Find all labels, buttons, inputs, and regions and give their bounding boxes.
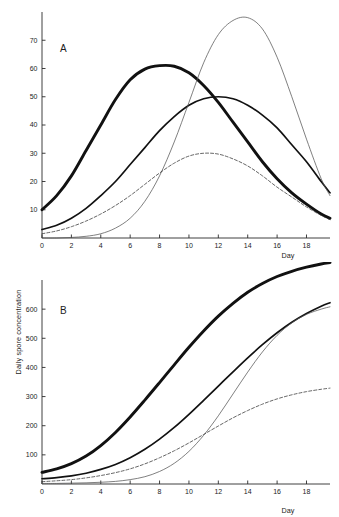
x-tick-label: 0 — [40, 242, 44, 249]
y-tick-label: 10 — [30, 206, 38, 213]
x-tick-label: 18 — [303, 488, 311, 495]
x-tick-label: 18 — [303, 242, 311, 249]
y-tick-label: 20 — [30, 178, 38, 185]
x-tick-label: 4 — [99, 488, 103, 495]
y-tick-label: 200 — [26, 422, 38, 429]
panel-b-axes — [42, 280, 330, 484]
x-tick-label: 0 — [40, 488, 44, 495]
panel-a-tick-labels: 10203040506070024681012141618 — [30, 37, 311, 249]
x-tick-label: 10 — [185, 242, 193, 249]
x-tick-label: 16 — [273, 242, 281, 249]
panel-a-x-axis-title: Day — [282, 251, 295, 260]
panel-a-daily-spore-concentration: Daily spore concentration 10203040506070… — [0, 0, 339, 262]
panel-a-letter: A — [60, 43, 67, 54]
y-tick-label: 400 — [26, 364, 38, 371]
panel-b-curves — [42, 263, 330, 484]
y-tick-label: 40 — [30, 121, 38, 128]
curve-thin-gray-late — [42, 17, 330, 238]
x-tick-label: 2 — [69, 488, 73, 495]
x-tick-label: 4 — [99, 242, 103, 249]
spore-concentration-figure: Daily spore concentration 10203040506070… — [0, 0, 339, 517]
x-tick-label: 6 — [128, 488, 132, 495]
panel-a-curves — [42, 17, 330, 238]
curve-thick-black-early-cumulative — [42, 263, 330, 473]
x-tick-label: 2 — [69, 242, 73, 249]
panel-b-cumulative-spore-concentrations: Cumulative spore concentrations 10020030… — [0, 262, 339, 517]
y-tick-label: 100 — [26, 451, 38, 458]
curve-thick-black-early — [42, 65, 330, 218]
x-tick-label: 16 — [273, 488, 281, 495]
x-tick-label: 6 — [128, 242, 132, 249]
x-tick-label: 12 — [214, 242, 222, 249]
y-tick-label: 70 — [30, 37, 38, 44]
x-tick-label: 8 — [158, 488, 162, 495]
x-tick-label: 10 — [185, 488, 193, 495]
curve-medium-black-mid — [42, 97, 330, 230]
y-tick-label: 30 — [30, 150, 38, 157]
curve-dashed-low — [42, 153, 330, 234]
y-tick-label: 60 — [30, 65, 38, 72]
y-tick-label: 600 — [26, 306, 38, 313]
curve-medium-black-mid-cumulative — [42, 303, 330, 479]
y-tick-label: 300 — [26, 393, 38, 400]
x-tick-label: 8 — [158, 242, 162, 249]
y-tick-label: 50 — [30, 93, 38, 100]
x-tick-label: 14 — [244, 488, 252, 495]
panel-b-y-axis-title: Cumulative spore concentrations — [14, 478, 23, 517]
panel-b-letter: B — [60, 305, 67, 316]
curve-dashed-low-cumulative — [42, 388, 330, 482]
x-tick-label: 12 — [214, 488, 222, 495]
panel-b-plot: 100200300400500600024681012141618 B Day — [0, 262, 339, 517]
panel-a-plot: 10203040506070024681012141618 A Day — [0, 0, 339, 262]
x-tick-label: 14 — [244, 242, 252, 249]
panel-b-x-axis-title: Day — [282, 506, 295, 515]
panel-a-axes — [42, 12, 330, 238]
y-tick-label: 500 — [26, 335, 38, 342]
